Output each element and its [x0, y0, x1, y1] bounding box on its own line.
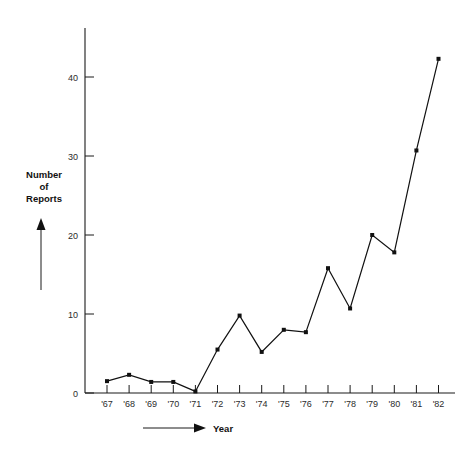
x-tick-label: '69 — [145, 399, 157, 409]
x-tick-label: '78 — [344, 399, 356, 409]
chart-figure: Number of Reports Year 010203040 '67'68'… — [0, 0, 472, 449]
y-axis-ticks: 010203040 — [68, 73, 94, 399]
y-axis-title-line3: Reports — [26, 193, 62, 204]
x-tick-label: '80 — [388, 399, 400, 409]
x-tick-label: '70 — [167, 399, 179, 409]
x-tick-label: '81 — [411, 399, 423, 409]
x-tick-label: '71 — [190, 399, 202, 409]
data-point-marker — [238, 314, 242, 318]
data-point-marker — [348, 306, 352, 310]
arrow-up-icon — [37, 218, 46, 290]
x-tick-label: '68 — [123, 399, 135, 409]
x-tick-label: '76 — [300, 399, 312, 409]
arrow-right-icon — [143, 424, 206, 433]
y-tick-label: 30 — [68, 152, 78, 162]
data-point-marker — [193, 389, 197, 393]
y-tick-label: 10 — [68, 310, 78, 320]
data-point-marker — [282, 328, 286, 332]
y-tick-label: 40 — [68, 73, 78, 83]
y-tick-label: 0 — [73, 389, 78, 399]
data-point-marker — [149, 380, 153, 384]
data-point-marker — [437, 57, 441, 61]
line-chart-canvas: Number of Reports Year 010203040 '67'68'… — [0, 0, 472, 449]
y-tick-label: 20 — [68, 231, 78, 241]
data-point-marker — [216, 348, 220, 352]
x-tick-label: '67 — [101, 399, 113, 409]
data-point-marker — [171, 380, 175, 384]
data-point-marker — [326, 266, 330, 270]
y-axis-title-line2: of — [40, 181, 50, 192]
data-point-marker — [370, 233, 374, 237]
x-tick-label: '75 — [278, 399, 290, 409]
x-tick-label: '82 — [433, 399, 445, 409]
data-point-marker — [392, 250, 396, 254]
data-point-marker — [304, 330, 308, 334]
x-tick-label: '79 — [366, 399, 378, 409]
x-axis-title: Year — [213, 423, 233, 434]
data-point-marker — [414, 148, 418, 152]
data-point-marker — [127, 373, 131, 377]
x-tick-label: '72 — [212, 399, 224, 409]
x-tick-label: '73 — [234, 399, 246, 409]
y-axis-title-line1: Number — [26, 169, 62, 180]
x-tick-label: '77 — [322, 399, 334, 409]
series-markers — [105, 57, 441, 394]
data-point-marker — [105, 379, 109, 383]
series-line-number-of-reports — [107, 59, 439, 392]
x-axis-ticks: '67'68'69'70'71'72'73'74'75'76'77'78'79'… — [101, 385, 444, 409]
data-point-marker — [260, 350, 264, 354]
x-tick-label: '74 — [256, 399, 268, 409]
